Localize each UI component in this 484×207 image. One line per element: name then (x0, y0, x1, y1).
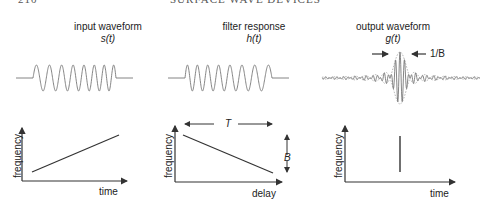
panel-3-xlabel: time (430, 188, 449, 199)
output-waveform (322, 52, 480, 104)
panel-3-ylabel: frequency (333, 134, 344, 178)
panel-3-pulse-width-label: 1/B (430, 48, 445, 59)
panel-1-xlabel: time (99, 186, 118, 197)
panel-2-B-label: B (284, 152, 291, 163)
panel-1-ylabel: frequency (12, 134, 23, 178)
diagram-graphics (0, 0, 484, 207)
panel-2-ylabel: frequency (163, 134, 174, 178)
panel-2-T-label: T (225, 118, 231, 129)
filter-waveform (168, 65, 289, 91)
input-waveform (16, 65, 133, 91)
panel-2-xlabel: delay (252, 188, 276, 199)
